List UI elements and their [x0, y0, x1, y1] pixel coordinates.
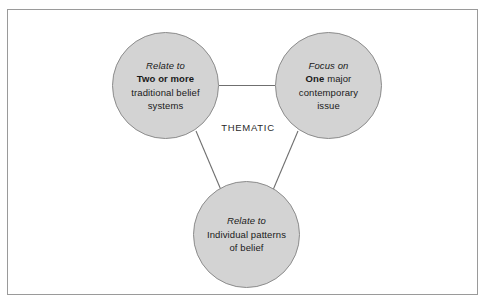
node-line: Two or more	[131, 72, 199, 86]
node-line-suffix: major	[324, 73, 351, 84]
node-line: issue	[299, 99, 358, 113]
node-two-or-more-label: Relate to Two or more traditional belief…	[123, 59, 207, 113]
connector-right-to-bottom	[273, 131, 298, 190]
diagram-page: Relate to Two or more traditional belief…	[0, 0, 488, 308]
node-individual-patterns[interactable]: Relate to Individual patterns of belief	[193, 181, 300, 288]
node-line: Individual patterns	[207, 228, 286, 242]
center-label-thematic: THEMATIC	[202, 122, 294, 133]
node-line: contemporary	[299, 86, 358, 100]
node-line: Relate to	[131, 59, 199, 73]
node-line: traditional belief	[131, 86, 199, 100]
node-individual-patterns-label: Relate to Individual patterns of belief	[199, 214, 294, 255]
node-line: One major	[299, 72, 358, 86]
connector-left-to-bottom	[196, 131, 221, 190]
node-line: Relate to	[207, 214, 286, 228]
node-one-major-label: Focus on One major contemporary issue	[291, 59, 366, 113]
node-line: of belief	[207, 241, 286, 255]
node-line: Focus on	[299, 59, 358, 73]
node-line: systems	[131, 99, 199, 113]
node-line-emphasis: One	[306, 73, 325, 84]
